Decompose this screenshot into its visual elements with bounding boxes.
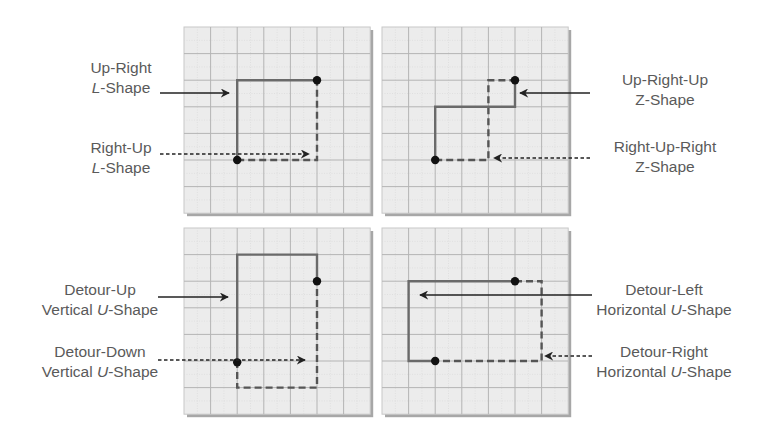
label-right-up-l-shape: Right-Up L-Shape	[66, 138, 176, 178]
label-detour-right-horizontal-u-shape: Detour-Right Horizontal U-Shape	[574, 342, 754, 382]
label-line-1: Up-Right	[66, 58, 176, 78]
label-up-right-l-shape: Up-Right L-Shape	[66, 58, 176, 98]
label-line-1: Up-Right-Up	[590, 70, 740, 90]
endpoint-dot	[233, 156, 241, 164]
label-line-1: Detour-Up	[20, 280, 180, 300]
label-line-1: Detour-Left	[574, 280, 754, 300]
endpoint-dot	[313, 277, 321, 285]
label-line-2: Z-Shape	[590, 90, 740, 110]
label-up-right-up-z-shape: Up-Right-Up Z-Shape	[590, 70, 740, 110]
grid-panel-up-right-up-z	[382, 27, 571, 216]
endpoint-dot	[431, 156, 439, 164]
endpoint-dot	[313, 76, 321, 84]
label-right-up-right-z-shape: Right-Up-Right Z-Shape	[590, 137, 740, 177]
shape-letter: U	[97, 363, 108, 380]
label-detour-left-horizontal-u-shape: Detour-Left Horizontal U-Shape	[574, 280, 754, 320]
grid-panel-horizontal-u	[382, 228, 571, 417]
label-line-1: Right-Up-Right	[590, 137, 740, 157]
endpoint-dot	[511, 76, 519, 84]
label-line-1: Detour-Down	[20, 342, 180, 362]
grid-panel-vertical-u	[184, 228, 373, 417]
endpoint-dot	[511, 277, 519, 285]
shape-letter: U	[670, 301, 681, 318]
endpoint-dot	[431, 357, 439, 365]
label-detour-down-vertical-u-shape: Detour-Down Vertical U-Shape	[20, 342, 180, 382]
grid-panel-up-right-l	[184, 27, 373, 216]
label-line-1: Right-Up	[66, 138, 176, 158]
label-line-1: Detour-Right	[574, 342, 754, 362]
label-detour-up-vertical-u-shape: Detour-Up Vertical U-Shape	[20, 280, 180, 320]
label-line-2: Z-Shape	[590, 157, 740, 177]
shape-letter: U	[670, 363, 681, 380]
shape-letter: U	[97, 301, 108, 318]
